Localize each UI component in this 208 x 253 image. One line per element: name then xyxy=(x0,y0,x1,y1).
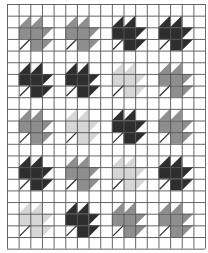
quilt-grid xyxy=(7,4,206,250)
quilt-svg xyxy=(7,4,206,250)
